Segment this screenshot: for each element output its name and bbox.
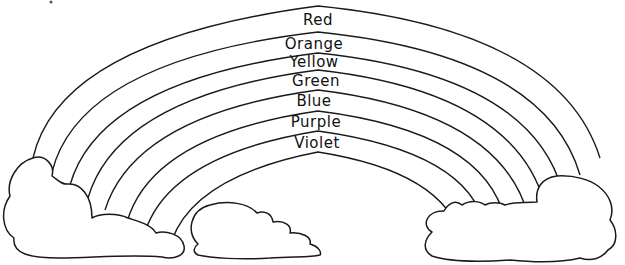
band-label-purple: Purple: [291, 113, 341, 131]
rainbow-coloring-page: Red Orange Yellow Green Blue Purple Viol…: [0, 0, 625, 265]
right-cloud: [425, 176, 616, 262]
corner-mark: [50, 1, 53, 4]
band-label-orange: Orange: [285, 35, 343, 53]
band-label-green: Green: [292, 72, 340, 90]
band-label-red: Red: [303, 11, 333, 29]
middle-cloud: [191, 203, 320, 259]
band-label-yellow: Yellow: [288, 53, 338, 71]
band-label-blue: Blue: [296, 92, 331, 110]
band-label-violet: Violet: [294, 134, 340, 152]
